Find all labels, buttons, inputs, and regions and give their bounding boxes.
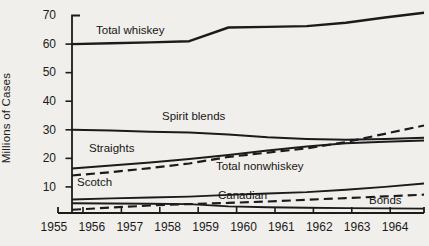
- series-label-total-whiskey: Total whiskey: [96, 24, 164, 36]
- x-tick-label-1955: 1955: [35, 220, 73, 238]
- series-label-bonds: Bonds: [369, 194, 402, 206]
- y-tick-label-20: 20: [26, 151, 56, 165]
- series-label-total-nonwhiskey: Total nonwhiskey: [216, 160, 304, 172]
- y-tick-label-30: 30: [26, 123, 56, 137]
- x-axis-tick-labels: 1955 1956 1957 1958 1959 1960 1961 1962 …: [35, 220, 414, 238]
- y-tick-label-50: 50: [26, 65, 56, 79]
- y-tick-label-10: 10: [26, 180, 56, 194]
- x-tick-label-1960: 1960: [225, 220, 263, 238]
- y-axis-title: Millions of Cases: [0, 53, 16, 183]
- axis-frame: [58, 16, 424, 213]
- series-label-straights: Straights: [89, 142, 134, 154]
- x-tick-label-1956: 1956: [73, 220, 111, 238]
- line-chart-figure: Millions of Cases 70 60 50 40 30 20 10 T…: [0, 0, 429, 246]
- x-tick-label-1961: 1961: [262, 220, 300, 238]
- x-tick-label-1957: 1957: [111, 220, 149, 238]
- x-tick-label-1958: 1958: [149, 220, 187, 238]
- y-tick-label-60: 60: [26, 37, 56, 51]
- series-line-spirit-blends: [72, 130, 424, 140]
- x-tick-label-1962: 1962: [300, 220, 338, 238]
- x-tick-label-1964: 1964: [376, 220, 414, 238]
- series-label-scotch: Scotch: [77, 176, 112, 188]
- x-tick-label-1959: 1959: [187, 220, 225, 238]
- y-tick-label-40: 40: [26, 94, 56, 108]
- plot-area: [0, 0, 429, 246]
- series-label-canadian: Canadian: [218, 189, 267, 201]
- y-tick-label-70: 70: [26, 8, 56, 22]
- series-label-spirit-blends: Spirit blends: [162, 110, 225, 122]
- x-tick-label-1963: 1963: [338, 220, 376, 238]
